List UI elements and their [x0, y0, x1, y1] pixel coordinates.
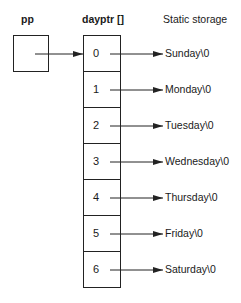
- string-friday: Friday\0: [165, 227, 203, 239]
- string-sunday: Sunday\0: [165, 47, 209, 59]
- pointer-arrows: [0, 0, 241, 303]
- string-wednesday: Wednesday\0: [165, 155, 229, 167]
- string-monday: Monday\0: [165, 83, 211, 95]
- string-saturday: Saturday\0: [165, 263, 216, 275]
- string-thursday: Thursday\0: [165, 191, 218, 203]
- string-tuesday: Tuesday\0: [165, 119, 214, 131]
